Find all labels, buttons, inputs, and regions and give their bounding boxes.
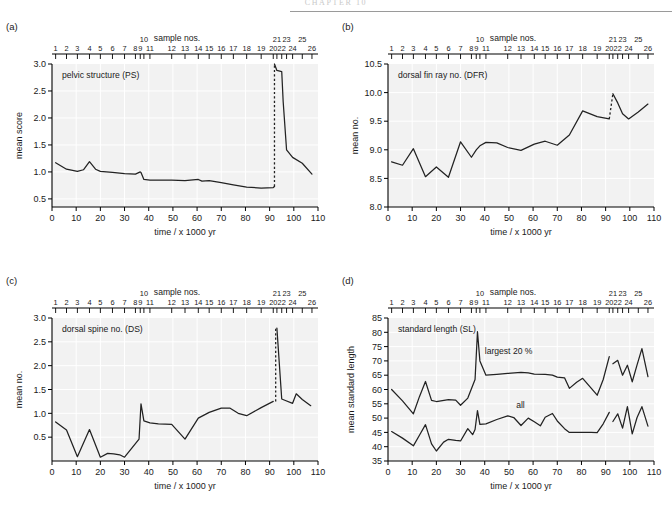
y-axis-tick-label: 35 [372, 456, 382, 466]
y-axis-tick-label: 0.5 [33, 194, 46, 204]
x-axis-tick-label: 10 [407, 213, 417, 223]
panel-letter: (d) [342, 275, 354, 286]
y-axis-title: mean no. [14, 371, 24, 409]
sample-number-label: 7 [122, 298, 126, 307]
sample-number-label: 7 [458, 298, 462, 307]
y-axis-tick-label: 2.0 [33, 361, 46, 371]
x-axis-tick-label: 0 [49, 467, 54, 477]
sample-number-label: 13 [181, 44, 189, 53]
x-axis-tick-label: 90 [265, 213, 275, 223]
plot-inline-title: standard length (SL) [398, 324, 476, 334]
plot-background [52, 64, 318, 207]
sample-number-label: 8 [133, 44, 137, 53]
sample-number-label: 10 [140, 289, 148, 298]
x-axis-tick-label: 100 [622, 213, 637, 223]
sample-number-label: 18 [579, 298, 587, 307]
sample-number-label: 5 [434, 298, 438, 307]
x-axis-tick-label: 10 [407, 467, 417, 477]
x-axis-tick-label: 20 [95, 467, 105, 477]
y-axis-tick-label: 1.0 [33, 167, 46, 177]
y-axis-tick-label: 3.0 [33, 59, 46, 69]
sample-number-label: 12 [168, 44, 176, 53]
y-axis-tick-label: 9.5 [369, 116, 382, 126]
sample-number-label: 3 [75, 298, 79, 307]
y-axis-tick-label: 1.0 [33, 409, 46, 419]
y-axis-tick-label: 1.5 [33, 385, 46, 395]
x-axis-tick-label: 50 [504, 467, 514, 477]
y-axis-tick-label: 3.0 [33, 313, 46, 323]
sample-number-label: 22 [278, 44, 286, 53]
sample-number-label: 26 [644, 298, 652, 307]
sample-number-label: 9 [138, 44, 142, 53]
sample-number-label: 13 [517, 298, 525, 307]
sample-number-label: 15 [541, 44, 549, 53]
x-axis-tick-label: 110 [647, 467, 661, 477]
x-axis-tick-label: 90 [601, 467, 611, 477]
x-axis-tick-label: 60 [192, 213, 202, 223]
x-axis-tick-label: 110 [311, 213, 325, 223]
y-axis-tick-label: 55 [372, 399, 382, 409]
x-axis-tick-label: 80 [240, 467, 250, 477]
sample-number-label: 20 [269, 298, 277, 307]
x-axis-tick-label: 70 [552, 467, 562, 477]
sample-number-label: 23 [282, 35, 290, 44]
sample-number-label: 20 [605, 298, 613, 307]
sample-number-label: 24 [288, 44, 296, 53]
y-axis-tick-label: 8.0 [369, 202, 382, 212]
x-axis-tick-label: 100 [622, 467, 637, 477]
x-axis-tick-label: 0 [49, 213, 54, 223]
sample-number-label: 17 [565, 298, 573, 307]
sample-number-label: 4 [87, 44, 91, 53]
sample-number-label: 8 [469, 298, 473, 307]
sample-number-label: 4 [87, 298, 91, 307]
sample-number-label: 19 [257, 44, 265, 53]
sample-number-label: 22 [278, 298, 286, 307]
sample-number-label: 1 [390, 298, 394, 307]
x-axis-title: time / x 1000 yr [154, 227, 216, 237]
sample-axis-title: sample nos. [490, 33, 536, 43]
y-axis-tick-label: 65 [372, 370, 382, 380]
sample-axis-title: sample nos. [154, 33, 200, 43]
x-axis-tick-label: 10 [71, 213, 81, 223]
y-axis-tick-label: 75 [372, 342, 382, 352]
sample-number-label: 25 [298, 35, 306, 44]
y-axis-tick-label: 2.5 [33, 337, 46, 347]
y-axis-tick-label: 85 [372, 313, 382, 323]
y-axis-tick-label: 50 [372, 413, 382, 423]
x-axis-tick-label: 50 [504, 213, 514, 223]
x-axis-title: time / x 1000 yr [490, 227, 552, 237]
sample-axis-title: sample nos. [154, 287, 200, 297]
sample-number-label: 5 [98, 44, 102, 53]
x-axis-tick-label: 40 [144, 213, 154, 223]
sample-number-label: 11 [146, 44, 154, 53]
x-axis-tick-label: 20 [95, 213, 105, 223]
sample-number-label: 2 [400, 298, 404, 307]
x-axis-tick-label: 60 [192, 467, 202, 477]
x-axis-tick-label: 90 [601, 213, 611, 223]
y-axis-tick-label: 9.0 [369, 145, 382, 155]
sample-number-label: 11 [146, 298, 154, 307]
sample-number-label: 9 [474, 298, 478, 307]
sample-number-label: 21 [273, 289, 281, 298]
sample-number-label: 17 [229, 44, 237, 53]
sample-number-label: 18 [243, 298, 251, 307]
sample-number-label: 1 [54, 44, 58, 53]
annotation-largest-20-percent: largest 20 % [485, 346, 533, 356]
plot-inline-title: dorsal fin ray no. (DFR) [398, 70, 487, 80]
sample-number-label: 15 [205, 44, 213, 53]
panel-a-pelvic-structure: (a)1234567891011121314151617181920212223… [0, 18, 336, 255]
sample-number-label: 22 [614, 298, 622, 307]
x-axis-tick-label: 30 [456, 467, 466, 477]
y-axis-tick-label: 70 [372, 356, 382, 366]
sample-number-label: 19 [593, 44, 601, 53]
sample-number-label: 1 [390, 44, 394, 53]
x-axis-tick-label: 90 [265, 467, 275, 477]
panel-c-dorsal-spine: (c)1234567891011121314151617181920212223… [0, 272, 336, 509]
y-axis-tick-label: 80 [372, 328, 382, 338]
x-axis-tick-label: 40 [480, 467, 490, 477]
sample-number-label: 14 [194, 44, 202, 53]
x-axis-tick-label: 0 [385, 467, 390, 477]
x-axis-title: time / x 1000 yr [490, 481, 552, 491]
sample-number-label: 11 [482, 44, 490, 53]
x-axis-tick-label: 30 [120, 213, 130, 223]
